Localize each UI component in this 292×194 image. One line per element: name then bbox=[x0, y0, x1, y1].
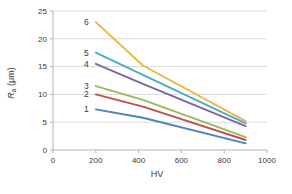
line-chart: 0510152025 02004006008001000 123456 HV R… bbox=[0, 0, 292, 194]
x-tick-labels: 02004006008001000 bbox=[51, 156, 277, 165]
x-tick-label: 1000 bbox=[258, 156, 276, 165]
series-lines bbox=[96, 22, 246, 143]
series-label-1: 1 bbox=[84, 104, 89, 114]
chart: 0510152025 02004006008001000 123456 HV R… bbox=[0, 0, 292, 194]
series-label-5: 5 bbox=[84, 48, 89, 58]
y-tick-label: 25 bbox=[38, 7, 47, 16]
y-tick-label: 20 bbox=[38, 35, 47, 44]
series-label-3: 3 bbox=[84, 81, 89, 91]
y-tick-label: 5 bbox=[43, 118, 48, 127]
y-tick-labels: 0510152025 bbox=[38, 7, 47, 155]
series-line-4 bbox=[96, 64, 246, 126]
series-line-6 bbox=[96, 22, 246, 121]
x-tick-label: 800 bbox=[218, 156, 232, 165]
x-tick-label: 400 bbox=[132, 156, 146, 165]
y-tick-label: 0 bbox=[43, 146, 48, 155]
series-label-4: 4 bbox=[84, 59, 89, 69]
series-label-6: 6 bbox=[84, 17, 89, 27]
x-axis-title: HV bbox=[151, 169, 164, 179]
y-axis-title: Ra (μm) bbox=[6, 67, 17, 98]
y-tick-label: 15 bbox=[38, 62, 47, 71]
x-tick-label: 0 bbox=[51, 156, 56, 165]
series-line-1 bbox=[96, 109, 246, 143]
x-tick-label: 200 bbox=[89, 156, 103, 165]
y-tick-label: 10 bbox=[38, 90, 47, 99]
series-line-3 bbox=[96, 86, 246, 137]
x-tick-label: 600 bbox=[175, 156, 189, 165]
series-labels: 123456 bbox=[84, 17, 89, 114]
